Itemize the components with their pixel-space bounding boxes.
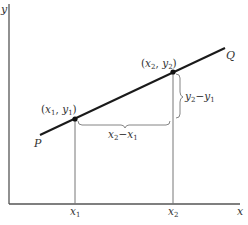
run-label: x2−x1 xyxy=(108,128,138,142)
point-p-label: P xyxy=(33,137,42,150)
run-brace xyxy=(78,121,170,128)
slope-diagram: y x P Q (x1, y1) (x2, y2) x2−x1 y2−y1 x1… xyxy=(0,0,248,225)
y-axis-label: y xyxy=(0,3,8,16)
x2-tick-label: x2 xyxy=(168,205,178,219)
x1-tick-label: x1 xyxy=(70,205,80,219)
x-axis-label: x xyxy=(237,205,244,218)
rise-brace xyxy=(176,74,183,118)
point-2-label: (x2, y2) xyxy=(141,57,177,71)
point-1 xyxy=(72,116,77,121)
point-1-label: (x1, y1) xyxy=(41,103,77,117)
rise-label: y2−y1 xyxy=(184,90,215,104)
point-q-label: Q xyxy=(226,49,235,62)
